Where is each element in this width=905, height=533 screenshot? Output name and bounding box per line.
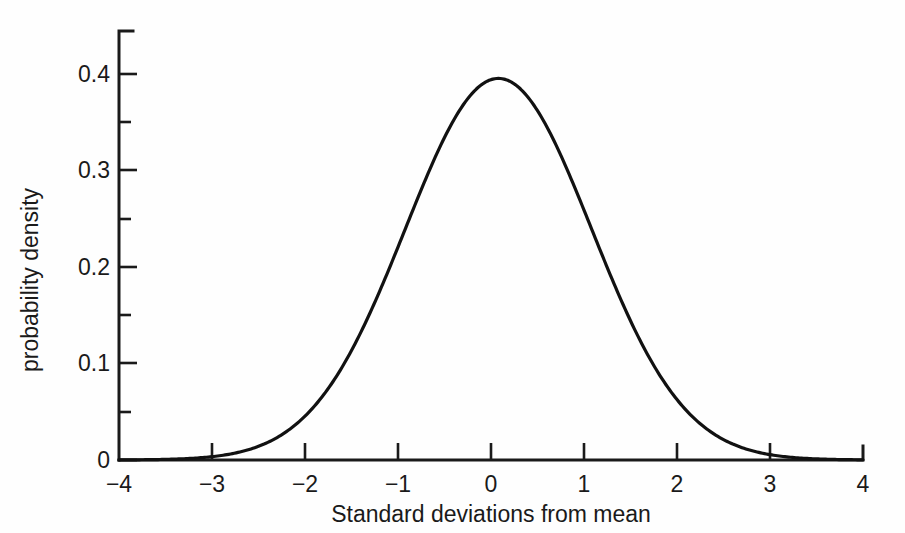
x-tick-label-neg3: −3 [199, 471, 225, 497]
y-tick-label-0-1: 0.1 [78, 350, 110, 376]
x-tick-label-0: 0 [485, 471, 498, 497]
x-tick-label-1: 1 [578, 471, 591, 497]
x-tick-label-2: 2 [671, 471, 684, 497]
x-tick-label-neg1: −1 [385, 471, 411, 497]
y-tick-label-0-4: 0.4 [78, 61, 110, 87]
y-tick-label-0-3: 0.3 [78, 157, 110, 183]
normal-distribution-chart: 0 0.1 0.2 0.3 0.4 −4 −3 −2 −1 0 1 2 3 4 … [0, 0, 905, 533]
x-tick-label-neg4: −4 [106, 471, 132, 497]
x-tick-label-3: 3 [764, 471, 777, 497]
y-tick-label-0-2: 0.2 [78, 254, 110, 280]
y-axis-major-ticks [119, 74, 137, 460]
x-tick-label-4: 4 [857, 471, 870, 497]
normal-density-curve [119, 78, 863, 459]
y-axis-line [119, 31, 133, 460]
y-axis-title: probability density [17, 187, 43, 372]
x-axis-title: Standard deviations from mean [331, 501, 651, 527]
y-tick-label-0: 0 [97, 447, 110, 473]
x-axis-ticks [212, 443, 770, 460]
figure-canvas: 0 0.1 0.2 0.3 0.4 −4 −3 −2 −1 0 1 2 3 4 … [0, 0, 905, 533]
x-tick-label-neg2: −2 [292, 471, 318, 497]
